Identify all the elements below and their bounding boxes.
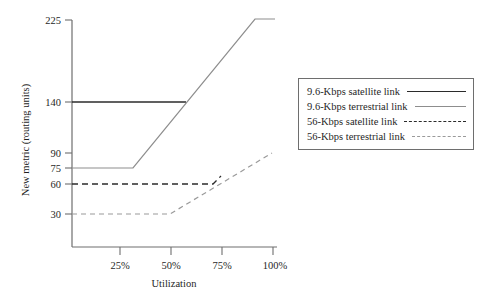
legend-line-sample-solid-light [415, 106, 466, 107]
chart-figure: 225 140 90 75 60 30 25% 50% 75% 100% Uti… [0, 0, 486, 305]
x-tick-label: 75% [212, 260, 232, 271]
legend-item-96-satellite: 9.6-Kbps satellite link [307, 84, 466, 99]
legend-item-56-satellite: 56-Kbps satellite link [307, 114, 466, 129]
y-axis-ticks [65, 20, 72, 214]
y-tick-label: 225 [45, 15, 61, 26]
x-tick-label: 100% [263, 260, 288, 271]
legend-item-96-terrestrial: 9.6-Kbps terrestrial link [307, 99, 466, 114]
chart-canvas: 225 140 90 75 60 30 25% 50% 75% 100% Uti… [0, 0, 486, 305]
y-tick-label: 90 [51, 148, 62, 159]
y-tick-label: 30 [51, 209, 62, 220]
x-axis-ticks [120, 247, 273, 255]
legend-line-sample-dash-dark [404, 121, 466, 122]
x-axis-title: Utilization [152, 278, 198, 289]
legend-label: 9.6-Kbps terrestrial link [307, 99, 408, 114]
chart-legend: 9.6-Kbps satellite link 9.6-Kbps terrest… [298, 78, 474, 150]
legend-label: 9.6-Kbps satellite link [307, 84, 400, 99]
legend-label: 56-Kbps satellite link [307, 114, 397, 129]
y-tick-label: 60 [51, 179, 62, 190]
legend-line-sample-dash-light [412, 136, 466, 137]
legend-item-56-terrestrial: 56-Kbps terrestrial link [307, 129, 466, 144]
legend-line-sample-solid-dark [407, 91, 466, 92]
y-axis-title: New metric (routing units) [20, 83, 32, 196]
x-tick-label: 25% [110, 260, 130, 271]
y-axis-tick-labels: 225 140 90 75 60 30 [45, 15, 61, 220]
series-line-96-terrestrial [72, 19, 275, 168]
series-line-56-satellite [72, 176, 221, 184]
x-axis-tick-labels: 25% 50% 75% 100% [110, 260, 287, 271]
x-tick-label: 50% [161, 260, 181, 271]
y-tick-label: 140 [45, 97, 61, 108]
axis-lines [72, 20, 277, 247]
y-tick-label: 75 [51, 163, 62, 174]
legend-label: 56-Kbps terrestrial link [307, 129, 405, 144]
